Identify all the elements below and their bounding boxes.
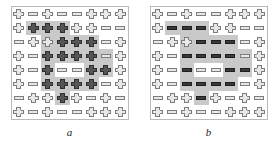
light-cross-icon <box>42 107 53 118</box>
grid-cell <box>26 105 41 119</box>
cross-core <box>89 26 93 30</box>
light-cross-icon <box>115 79 126 90</box>
grid-cell <box>12 35 27 49</box>
panel-a-grid <box>12 7 128 119</box>
cross-core <box>156 26 160 30</box>
grid-cell <box>70 49 85 63</box>
grid-cell <box>41 7 56 21</box>
light-bar-icon <box>28 12 38 17</box>
dark-bar-icon <box>182 82 192 87</box>
grid-cell <box>223 49 238 63</box>
light-bar-icon <box>167 54 177 59</box>
grid-cell <box>223 91 238 105</box>
light-bar-icon <box>240 82 250 87</box>
grid-cell <box>99 77 114 91</box>
light-cross-icon <box>181 37 192 48</box>
cross-core <box>228 26 232 30</box>
cross-core <box>75 54 79 58</box>
grid-cell <box>238 77 253 91</box>
grid-cell <box>55 91 70 105</box>
light-bar-icon <box>28 54 38 59</box>
light-cross-icon <box>239 107 250 118</box>
light-cross-icon <box>28 37 39 48</box>
light-cross-icon <box>115 107 126 118</box>
light-bar-icon <box>225 96 235 101</box>
dark-bar-icon <box>225 40 235 45</box>
light-cross-icon <box>86 9 97 20</box>
grid-cell <box>165 49 180 63</box>
dark-cross-icon <box>86 37 97 48</box>
light-bar-icon <box>211 68 221 73</box>
light-cross-icon <box>167 93 178 104</box>
grid-cell <box>113 91 128 105</box>
cross-core <box>185 12 189 16</box>
grid-cell <box>223 105 238 119</box>
dark-cross-icon <box>86 65 97 76</box>
dark-cross-icon <box>86 79 97 90</box>
cross-core <box>89 12 93 16</box>
dark-cross-icon <box>42 79 53 90</box>
grid-cell <box>209 105 224 119</box>
grid-cell <box>180 7 195 21</box>
cross-core <box>228 110 232 114</box>
grid-cell <box>209 63 224 77</box>
dark-bar-icon <box>196 96 206 101</box>
cross-core <box>46 82 50 86</box>
light-cross-icon <box>254 51 265 62</box>
cross-core <box>185 40 189 44</box>
cross-core <box>214 26 218 30</box>
cross-core <box>118 54 122 58</box>
grid-cell <box>41 63 56 77</box>
cross-core <box>118 12 122 16</box>
grid-cell <box>180 91 195 105</box>
cross-core <box>89 40 93 44</box>
cross-core <box>17 54 21 58</box>
light-bar-icon <box>211 12 221 17</box>
grid-cell <box>151 77 166 91</box>
dark-bar-icon <box>240 68 250 73</box>
cross-core <box>156 12 160 16</box>
grid-cell <box>99 63 114 77</box>
light-cross-icon <box>86 107 97 118</box>
grid-cell <box>12 49 27 63</box>
cross-core <box>257 12 261 16</box>
grid-cell <box>55 49 70 63</box>
cross-core <box>156 68 160 72</box>
grid-cell <box>12 21 27 35</box>
light-cross-icon <box>210 93 221 104</box>
grid-cell <box>26 49 41 63</box>
light-cross-icon <box>152 9 163 20</box>
dark-bar-icon <box>196 40 206 45</box>
panel-a-caption: a <box>67 127 73 138</box>
grid-cell <box>12 91 27 105</box>
grid-cell <box>209 91 224 105</box>
grid-cell <box>55 63 70 77</box>
light-cross-icon <box>13 79 24 90</box>
panel-b: b <box>139 0 278 156</box>
dark-bar-icon <box>182 68 192 73</box>
grid-cell <box>113 21 128 35</box>
grid-cell <box>26 21 41 35</box>
light-bar-icon <box>72 12 82 17</box>
cross-core <box>170 96 174 100</box>
dark-bar-icon <box>182 54 192 59</box>
light-bar-icon <box>57 110 67 115</box>
grid-cell <box>70 21 85 35</box>
cross-core <box>257 40 261 44</box>
grid-cell <box>165 21 180 35</box>
light-bar-icon <box>240 54 250 59</box>
light-cross-icon <box>225 23 236 34</box>
light-bar-icon <box>28 110 38 115</box>
cross-core <box>17 68 21 72</box>
cross-core <box>156 110 160 114</box>
light-cross-icon <box>86 23 97 34</box>
panel-b-caption: b <box>206 127 212 138</box>
light-cross-icon <box>71 23 82 34</box>
dark-cross-icon <box>42 51 53 62</box>
grid-cell <box>252 21 267 35</box>
cross-core <box>46 68 50 72</box>
grid-cell <box>209 21 224 35</box>
grid-cell <box>70 91 85 105</box>
light-cross-icon <box>152 107 163 118</box>
grid-cell <box>41 105 56 119</box>
